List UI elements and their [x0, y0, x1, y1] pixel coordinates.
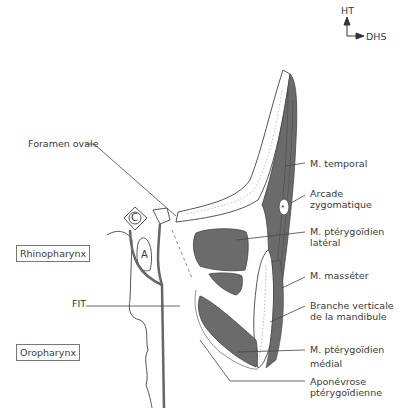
- region-oropharynx: Oropharynx: [16, 344, 80, 361]
- label-aponevrose: Aponévrose ptérygoïdienne: [310, 376, 382, 398]
- structure-letter-c: C: [131, 212, 138, 223]
- label-m-pterygoidien-lateral: M. ptérygoïdien latéral: [310, 226, 384, 248]
- orientation-arrows-icon: [344, 17, 364, 39]
- svg-text:*: *: [281, 204, 285, 212]
- pharynx-structures: [107, 207, 170, 408]
- orientation-up-label: HT: [341, 5, 354, 16]
- label-m-pterygoidien-medial: M. ptérygoïdien médial: [310, 344, 384, 369]
- label-m-masseter: M. masséter: [310, 270, 369, 281]
- label-arcade-zygomatique: Arcade zygomatique: [310, 188, 372, 210]
- guide-dashed-line: [172, 230, 192, 278]
- lateral-pterygoid-lower-head: [209, 273, 242, 295]
- label-foramen-ovale: Foramen ovale: [28, 138, 99, 149]
- region-rhinopharynx: Rhinopharynx: [16, 245, 90, 262]
- label-m-temporal: M. temporal: [310, 158, 367, 169]
- orientation-right-label: DHS: [366, 31, 387, 42]
- structure-letter-a: A: [141, 249, 148, 260]
- lateral-pterygoid-muscle: [193, 229, 248, 271]
- label-branche-verticale: Branche verticale de la mandibule: [310, 300, 394, 322]
- medial-pterygoid-muscle: [198, 296, 257, 367]
- label-fit: FIT: [72, 298, 86, 309]
- zygomatic-arch: *: [279, 199, 289, 215]
